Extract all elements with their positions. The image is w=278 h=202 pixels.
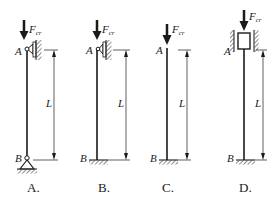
force-label: Fcr	[171, 23, 185, 37]
panel-c: Fcr A B L C.	[150, 23, 191, 195]
buckling-diagram: Fcr A B L A.	[0, 0, 278, 202]
force-arrow-icon	[240, 10, 249, 31]
fixed-support-icon	[89, 160, 108, 165]
caption-a: A.	[27, 180, 40, 195]
length-label: L	[117, 97, 124, 109]
force-arrow-icon	[20, 20, 29, 40]
force-label: Fcr	[248, 10, 262, 24]
point-a-label: A	[85, 44, 93, 56]
point-b-label: B	[80, 152, 87, 164]
sliding-block-support-icon	[230, 30, 259, 52]
point-b-label: B	[227, 152, 234, 164]
panel-d: Fcr A B L D.	[223, 10, 267, 195]
caption-c: C.	[162, 180, 174, 195]
force-label: Fcr	[28, 23, 42, 37]
panel-b: Fcr A B L B.	[80, 20, 130, 195]
caption-d: D.	[239, 180, 252, 195]
fixed-support-icon	[159, 160, 178, 165]
panel-a: Fcr A B L A.	[14, 20, 58, 195]
guided-pin-support-icon	[96, 40, 111, 60]
length-label: L	[254, 97, 261, 109]
point-b-label: B	[15, 152, 22, 164]
point-a-label: A	[14, 45, 22, 57]
fixed-support-icon	[236, 160, 255, 165]
length-label: L	[178, 97, 185, 109]
force-label: Fcr	[101, 23, 115, 37]
point-a-label: A	[155, 44, 163, 56]
length-label: L	[45, 97, 52, 109]
point-a-label: A	[223, 45, 231, 57]
force-arrow-icon	[163, 24, 172, 45]
force-arrow-icon	[93, 20, 102, 40]
point-b-label: B	[150, 152, 157, 164]
caption-b: B.	[98, 180, 110, 195]
